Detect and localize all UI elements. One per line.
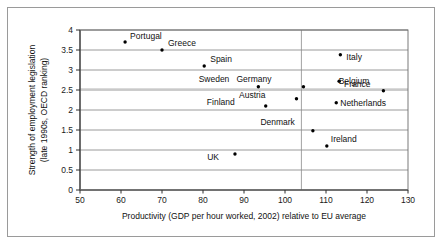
x-tick-label: 110	[319, 195, 333, 205]
y-axis-title-line1: Strength of employment legislation	[27, 45, 37, 176]
x-tick-label: 50	[75, 195, 85, 205]
data-point-label: Italy	[346, 52, 362, 62]
y-tick-label: 0.5	[61, 165, 73, 175]
y-tick-label: 0	[68, 185, 73, 195]
y-tick-label: 4	[68, 25, 73, 35]
data-point-marker	[311, 129, 314, 132]
data-point-labels: PortugalGreeceSpainItalySwedenGermanyFra…	[130, 31, 386, 162]
y-tick-label: 3	[68, 65, 73, 75]
data-point-label: Denmark	[260, 117, 295, 127]
x-axis-ticks: 5060708090100110120130	[75, 190, 415, 205]
chart-figure: 5060708090100110120130 00.511.522.533.54…	[0, 0, 444, 246]
data-point-marker	[123, 40, 126, 43]
data-point-marker	[302, 85, 305, 88]
data-point-label: UK	[207, 152, 219, 162]
data-point-marker	[233, 152, 236, 155]
data-point-marker	[264, 104, 267, 107]
x-tick-label: 70	[157, 195, 167, 205]
data-point-label: Greece	[168, 38, 196, 48]
data-point-label: Netherlands	[340, 98, 386, 108]
data-point-marker	[160, 48, 163, 51]
data-point-label: Spain	[210, 54, 232, 64]
x-tick-label: 60	[116, 195, 126, 205]
scatter-plot: 5060708090100110120130 00.511.522.533.54…	[0, 0, 444, 246]
data-point-marker	[339, 53, 342, 56]
y-tick-label: 3.5	[61, 45, 73, 55]
data-point-marker	[257, 85, 260, 88]
data-point-label: Belgium	[339, 76, 370, 86]
data-point-marker	[382, 89, 385, 92]
data-point-marker	[295, 97, 298, 100]
data-point-marker	[335, 101, 338, 104]
y-axis-ticks: 00.511.522.533.54	[61, 25, 80, 195]
data-point-label: Germany	[236, 74, 272, 84]
data-point-label: Portugal	[130, 31, 162, 41]
data-point-label: Finland	[207, 97, 235, 107]
x-tick-label: 100	[278, 195, 292, 205]
x-axis-title: Productivity (GDP per hour worked, 2002)…	[122, 211, 366, 221]
x-tick-label: 90	[239, 195, 249, 205]
y-axis-title-line2: (late 1990s, OECD ranking)	[39, 58, 49, 163]
data-point-marker	[203, 64, 206, 67]
data-point-label: Austria	[239, 90, 266, 100]
data-point-marker	[325, 144, 328, 147]
y-tick-label: 1.5	[61, 125, 73, 135]
y-tick-label: 1	[68, 145, 73, 155]
data-point-label: Sweden	[199, 74, 230, 84]
y-tick-label: 2	[68, 105, 73, 115]
x-tick-label: 80	[198, 195, 208, 205]
data-point-label: Ireland	[331, 134, 357, 144]
x-tick-label: 130	[401, 195, 415, 205]
y-tick-label: 2.5	[61, 85, 73, 95]
x-tick-label: 120	[360, 195, 374, 205]
